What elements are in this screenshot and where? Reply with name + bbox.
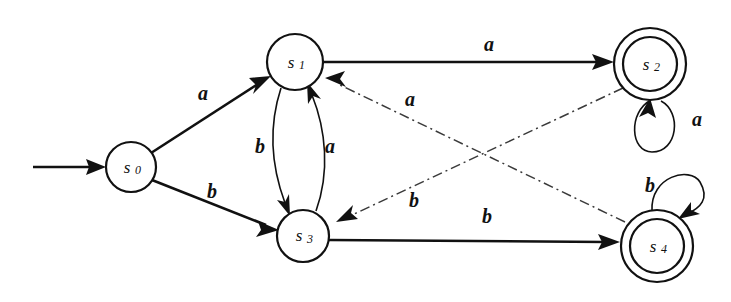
state-node-s1[interactable]: s 1 — [267, 34, 323, 90]
state-s0-subscript: 0 — [135, 163, 141, 177]
edge-label-s3-s1: a — [325, 135, 335, 157]
state-node-s4[interactable]: s 4 — [621, 210, 693, 282]
state-s3-label: s — [296, 226, 303, 245]
start-arrow-head — [86, 159, 106, 175]
edge-s4-s1[interactable]: a — [325, 71, 625, 222]
edge-label-s0-s1: a — [198, 82, 208, 104]
state-s4-inner-circle — [630, 219, 684, 273]
state-s3-circle — [277, 210, 329, 262]
state-s4-subscript: 4 — [661, 242, 667, 256]
edge-s2-s3-line — [352, 88, 623, 215]
edge-s0-s1-arrowhead — [249, 76, 271, 94]
state-node-s2[interactable]: s 2 — [614, 28, 686, 100]
edge-s0-s1[interactable]: a — [151, 76, 271, 153]
edge-label-s1-s2: a — [484, 33, 494, 55]
start-arrow-marker — [33, 159, 106, 175]
edge-s3-s1[interactable]: a — [307, 82, 335, 211]
edge-s2-s3-arrowhead — [336, 205, 358, 222]
automaton-svg: a b a b a b — [0, 0, 731, 302]
state-s2-label: s — [643, 55, 650, 74]
state-s4-label: s — [650, 237, 657, 256]
edge-s3-s4-line — [329, 240, 606, 242]
state-s0-circle — [106, 142, 156, 192]
edge-label-s1-s3: b — [255, 135, 265, 157]
edge-s1-s2[interactable]: a — [323, 33, 614, 70]
edge-label-s4-s1: a — [405, 88, 415, 110]
edge-label-s2-s3: b — [409, 189, 419, 211]
edge-s1-s3-path — [273, 88, 285, 203]
edge-s4-self-path — [652, 175, 704, 214]
edge-s3-s1-path — [312, 95, 325, 211]
state-s2-inner-circle — [623, 37, 677, 91]
edge-s4-self-arrowhead — [678, 202, 700, 219]
edge-s0-s3-arrowhead — [256, 221, 279, 237]
state-node-s0[interactable]: s 0 — [106, 142, 156, 192]
edge-s1-s3[interactable]: b — [255, 88, 290, 216]
edge-label-s4-self: b — [645, 174, 655, 196]
edge-s0-s3[interactable]: b — [152, 180, 279, 237]
edge-s2-self[interactable]: a — [635, 98, 702, 152]
state-s3-subscript: 3 — [306, 232, 313, 246]
edge-s4-s1-arrowhead — [325, 71, 346, 87]
edge-s3-s4[interactable]: b — [329, 205, 620, 250]
state-s1-subscript: 1 — [299, 58, 305, 72]
state-s1-label: s — [288, 53, 295, 72]
edge-label-s0-s3: b — [207, 180, 217, 202]
edge-s2-self-path — [635, 100, 675, 152]
state-s1-circle — [267, 34, 323, 90]
state-node-s3[interactable]: s 3 — [277, 210, 329, 262]
edge-s2-s3[interactable]: b — [336, 88, 623, 222]
edge-label-s3-s4: b — [482, 205, 492, 227]
edge-label-s2-self: a — [692, 108, 702, 130]
state-s0-label: s — [124, 158, 131, 177]
automaton-diagram-canvas: a b a b a b — [0, 0, 731, 302]
state-s2-subscript: 2 — [654, 60, 660, 74]
